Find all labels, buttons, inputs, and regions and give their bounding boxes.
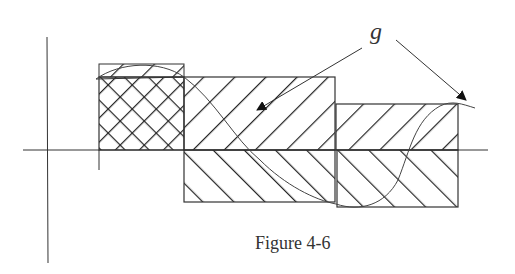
interval-2-region <box>184 77 335 202</box>
interval-1-region <box>96 64 184 150</box>
function-label-g: g <box>370 18 382 45</box>
arrow-to-curve-end <box>396 40 466 100</box>
figure-caption: Figure 4-6 <box>255 233 331 254</box>
interval-3-region <box>336 104 458 207</box>
